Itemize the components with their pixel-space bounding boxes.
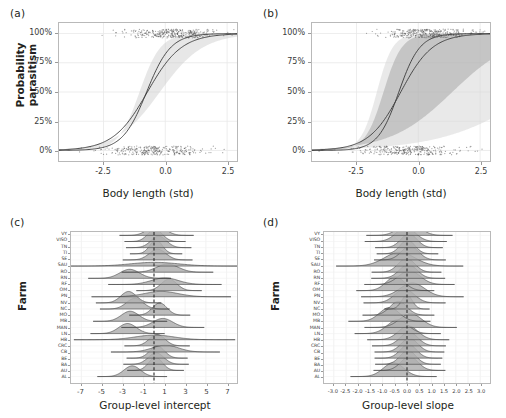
panel-c-letter: (c) (10, 216, 25, 228)
pd-farm-tick-mark (321, 266, 323, 267)
pa-xtick-mark (228, 162, 229, 165)
pd-farm-label: MAN (291, 325, 320, 330)
panel-a: (a) Probability parasitism 0%25%50%75%10… (0, 0, 253, 209)
panel-d-chart (324, 232, 490, 383)
pc-xtick-mark (81, 384, 82, 386)
pa-xtick-mark (166, 162, 167, 165)
pd-farm-label: VISO (291, 237, 320, 242)
pd-farm-tick-mark (321, 303, 323, 304)
pd-farm-tick-mark (321, 241, 323, 242)
panel-b: (b) 0%25%50%75%100% -2.50.02.5 Body leng… (253, 0, 506, 209)
pd-farm-tick-mark (321, 234, 323, 235)
pd-farm-tick-mark (321, 377, 323, 378)
pd-xtick-mark (444, 384, 445, 386)
panel-b-plot-area (311, 22, 491, 162)
pd-farm-label: MB (291, 318, 320, 323)
panel-d-ylabel: Farm (269, 251, 281, 341)
pc-farm-tick-mark (68, 340, 70, 341)
pc-farm-label: RF (38, 281, 67, 286)
pd-xtick-mark (395, 384, 396, 386)
pa-ytick-mark (55, 151, 58, 152)
pd-xtick-label: 3.0 (466, 388, 496, 394)
pc-farm-label: AL (38, 374, 67, 379)
pa-xtick-mark (103, 162, 104, 165)
pd-farm-label: BA (291, 362, 320, 367)
pc-xtick-mark (144, 384, 145, 386)
pd-farm-label: AL (291, 374, 320, 379)
pc-farm-label: MB (38, 318, 67, 323)
pd-xtick-mark (432, 384, 433, 386)
pb-xtick-label: 0.0 (401, 167, 437, 176)
panel-b-xlabel: Body length (std) (311, 187, 491, 199)
pd-farm-label: HB (291, 337, 320, 342)
pa-ytick-label: 75% (18, 57, 52, 66)
pd-farm-label: SE (291, 256, 320, 261)
pd-xtick-mark (370, 384, 371, 386)
pc-farm-tick-mark (68, 365, 70, 366)
pc-farm-label: SAU (38, 262, 67, 267)
pa-ytick-mark (55, 62, 58, 63)
pc-farm-label: VY (38, 231, 67, 236)
pa-ytick-label: 50% (18, 87, 52, 96)
pd-xtick-mark (382, 384, 383, 386)
pc-farm-label: PN (38, 293, 67, 298)
pc-farm-label: AU (38, 368, 67, 373)
pc-farm-tick-mark (68, 315, 70, 316)
pc-farm-label: HB (38, 337, 67, 342)
pc-farm-tick-mark (68, 297, 70, 298)
pb-ytick-label: 100% (271, 28, 305, 37)
pc-farm-tick-mark (68, 284, 70, 285)
pc-xtick-mark (123, 384, 124, 386)
pc-farm-label: NV (38, 300, 67, 305)
pc-farm-tick-mark (68, 377, 70, 378)
pc-farm-tick-mark (68, 359, 70, 360)
pa-xtick-label: 0.0 (148, 167, 184, 176)
pc-farm-tick-mark (68, 266, 70, 267)
panel-c-chart (71, 232, 237, 383)
pc-xtick-label: 7 (213, 388, 243, 396)
pd-farm-label: CRC (291, 343, 320, 348)
pc-farm-tick-mark (68, 259, 70, 260)
pd-farm-tick-mark (321, 365, 323, 366)
pc-xtick-mark (186, 384, 187, 386)
pb-xtick-label: -2.5 (338, 167, 374, 176)
pc-farm-tick-mark (68, 334, 70, 335)
pc-farm-tick-mark (68, 247, 70, 248)
pc-farm-label: MAN (38, 325, 67, 330)
pd-farm-label: CB (291, 349, 320, 354)
pd-farm-tick-mark (321, 253, 323, 254)
pd-xtick-mark (358, 384, 359, 386)
pc-farm-tick-mark (68, 346, 70, 347)
pd-farm-label: NC (291, 306, 320, 311)
pc-farm-tick-mark (68, 253, 70, 254)
pd-farm-label: MO (291, 312, 320, 317)
pc-farm-tick-mark (68, 303, 70, 304)
pc-farm-label: RO (38, 269, 67, 274)
pb-xtick-mark (419, 162, 420, 165)
panel-c: (c) Farm VYVISOTNTISESAURORNRFOMPNNVNCMO… (0, 209, 253, 418)
pd-farm-tick-mark (321, 315, 323, 316)
pc-farm-tick-mark (68, 278, 70, 279)
pd-farm-label: RF (291, 281, 320, 286)
pa-ytick-mark (55, 122, 58, 123)
pc-farm-label: CRC (38, 343, 67, 348)
pd-farm-tick-mark (321, 259, 323, 260)
panel-a-xlabel: Body length (std) (58, 187, 238, 199)
pc-xtick-mark (102, 384, 103, 386)
pc-farm-label: NC (38, 306, 67, 311)
pd-farm-label: SAU (291, 262, 320, 267)
pb-ytick-label: 75% (271, 57, 305, 66)
pd-farm-tick-mark (321, 309, 323, 310)
pc-farm-label: MO (38, 312, 67, 317)
pd-farm-tick-mark (321, 297, 323, 298)
pc-farm-tick-mark (68, 290, 70, 291)
pc-farm-label: CB (38, 349, 67, 354)
pc-farm-tick-mark (68, 371, 70, 372)
pb-ytick-mark (308, 92, 311, 93)
pb-ytick-mark (308, 151, 311, 152)
pd-farm-label: RN (291, 275, 320, 280)
pd-xtick-mark (419, 384, 420, 386)
pd-xtick-mark (469, 384, 470, 386)
pd-xtick-mark (407, 384, 408, 386)
pd-farm-label: BE (291, 356, 320, 361)
